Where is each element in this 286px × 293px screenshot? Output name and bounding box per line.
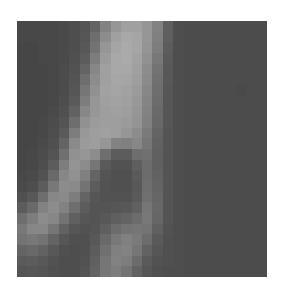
image-pixel-block (132, 160, 142, 171)
image-pixel-block (152, 64, 162, 75)
image-pixel-block (173, 21, 183, 32)
image-pixel-block (111, 224, 121, 235)
image-pixel-block (111, 74, 121, 85)
image-pixel-block (38, 96, 48, 107)
image-pixel-block (38, 234, 48, 245)
image-pixel-block (246, 192, 256, 203)
image-pixel-block (215, 85, 225, 96)
image-pixel-block (121, 53, 131, 64)
image-pixel-block (48, 224, 58, 235)
image-pixel-block (100, 224, 110, 235)
image-pixel-block (142, 160, 152, 171)
image-pixel-block (27, 202, 37, 213)
image-pixel-block (121, 202, 131, 213)
image-pixel-block (27, 181, 37, 192)
image-pixel-block (27, 213, 37, 224)
image-pixel-block (184, 42, 194, 53)
image-pixel-block (152, 170, 162, 181)
image-pixel-block (59, 160, 69, 171)
image-pixel-block (215, 192, 225, 203)
image-pixel-block (225, 32, 235, 43)
image-pixel-block (236, 117, 246, 128)
image-pixel-block (111, 53, 121, 64)
image-pixel-block (121, 64, 131, 75)
image-pixel-block (80, 74, 90, 85)
image-pixel-block (27, 42, 37, 53)
image-pixel-block (48, 213, 58, 224)
image-pixel-block (17, 53, 27, 64)
image-pixel-block (90, 234, 100, 245)
image-pixel-block (121, 256, 131, 267)
image-pixel-block (132, 256, 142, 267)
image-pixel-block (173, 181, 183, 192)
image-pixel-block (163, 53, 173, 64)
image-pixel-block (80, 85, 90, 96)
image-pixel-block (257, 224, 267, 235)
image-pixel-block (246, 64, 256, 75)
image-pixel-block (90, 21, 100, 32)
image-pixel-block (194, 245, 204, 256)
image-pixel-block (69, 42, 79, 53)
image-pixel-block (184, 149, 194, 160)
image-pixel-block (163, 74, 173, 85)
image-pixel-block (48, 170, 58, 181)
image-pixel-block (17, 96, 27, 107)
image-pixel-block (69, 213, 79, 224)
image-pixel-block (173, 234, 183, 245)
image-pixel-block (142, 202, 152, 213)
image-pixel-block (215, 96, 225, 107)
image-pixel-block (142, 234, 152, 245)
image-pixel-block (152, 128, 162, 139)
image-pixel-block (80, 106, 90, 117)
image-pixel-block (152, 42, 162, 53)
image-pixel-block (90, 53, 100, 64)
image-pixel-block (194, 64, 204, 75)
image-pixel-block (184, 213, 194, 224)
image-pixel-block (173, 202, 183, 213)
image-pixel-block (59, 32, 69, 43)
image-pixel-block (194, 213, 204, 224)
image-pixel-block (80, 32, 90, 43)
image-pixel-block (163, 245, 173, 256)
image-pixel-block (142, 32, 152, 43)
image-pixel-block (194, 128, 204, 139)
image-pixel-block (59, 192, 69, 203)
image-pixel-block (194, 224, 204, 235)
image-pixel-block (121, 74, 131, 85)
image-pixel-block (205, 74, 215, 85)
image-pixel-block (173, 117, 183, 128)
image-pixel-block (80, 128, 90, 139)
image-pixel-block (132, 170, 142, 181)
image-pixel-block (69, 266, 79, 277)
image-pixel-block (194, 106, 204, 117)
image-pixel-block (184, 138, 194, 149)
image-pixel-block (59, 245, 69, 256)
image-pixel-block (111, 149, 121, 160)
image-pixel-block (184, 245, 194, 256)
image-pixel-block (100, 74, 110, 85)
image-pixel-block (27, 138, 37, 149)
image-pixel-block (59, 128, 69, 139)
image-pixel-block (184, 21, 194, 32)
image-pixel-block (90, 181, 100, 192)
image-pixel-block (163, 234, 173, 245)
image-pixel-block (100, 202, 110, 213)
image-pixel-block (225, 266, 235, 277)
image-pixel-block (111, 202, 121, 213)
image-pixel-block (111, 245, 121, 256)
image-pixel-block (257, 266, 267, 277)
image-pixel-block (142, 21, 152, 32)
image-pixel-block (205, 117, 215, 128)
image-pixel-block (194, 192, 204, 203)
image-pixel-block (205, 181, 215, 192)
image-pixel-block (38, 106, 48, 117)
image-pixel-block (236, 42, 246, 53)
image-pixel-block (27, 224, 37, 235)
image-pixel-block (225, 128, 235, 139)
image-pixel-block (173, 192, 183, 203)
image-pixel-block (194, 53, 204, 64)
image-pixel-block (100, 106, 110, 117)
image-pixel-block (236, 32, 246, 43)
image-pixel-block (38, 170, 48, 181)
image-pixel-block (100, 64, 110, 75)
